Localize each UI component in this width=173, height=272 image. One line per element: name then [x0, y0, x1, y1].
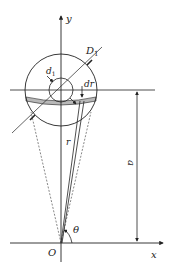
y-axis-label: y — [65, 13, 72, 24]
distance-label: a — [126, 160, 137, 166]
angle-label: θ — [73, 224, 79, 235]
inner-diameter-label: d1 — [46, 66, 56, 77]
origin-label: O — [48, 247, 56, 258]
diagram-canvas: y x O D1 d1 dr r a θ — [0, 0, 173, 272]
angle-arc — [64, 230, 72, 243]
ring-width-label: dr — [84, 79, 95, 89]
outer-diameter-label: D1 — [85, 45, 99, 58]
x-axis-label: x — [151, 249, 157, 260]
radius-line — [61, 101, 80, 243]
radius-line-2 — [62, 101, 84, 243]
radius-label: r — [66, 137, 71, 147]
